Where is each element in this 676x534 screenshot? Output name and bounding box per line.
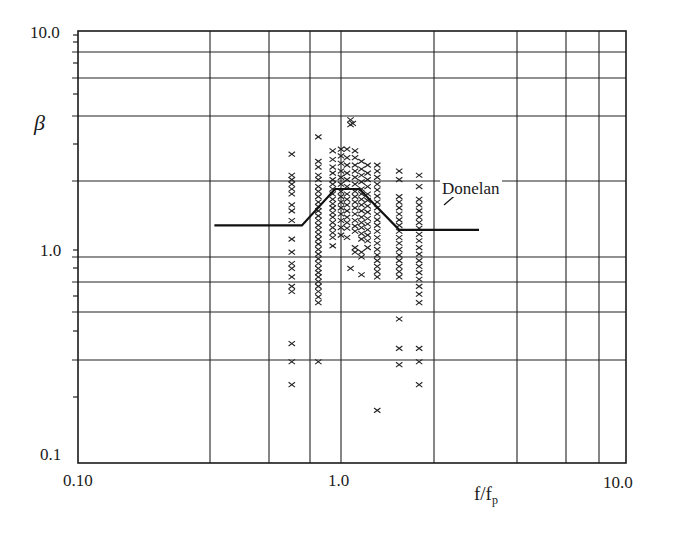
x-marker — [416, 238, 422, 243]
x-tick-label-10: 10.0 — [603, 474, 633, 491]
x-marker — [289, 187, 295, 192]
x-marker — [315, 165, 321, 170]
x-marker — [416, 292, 422, 297]
x-marker — [289, 218, 295, 223]
x-marker — [315, 295, 321, 300]
x-marker — [330, 165, 336, 170]
x-marker — [374, 275, 380, 280]
x-marker — [396, 200, 402, 205]
x-marker — [344, 208, 350, 213]
x-marker — [396, 346, 402, 351]
x-marker — [330, 235, 336, 240]
x-marker — [344, 163, 350, 168]
x-marker — [358, 173, 364, 178]
x-marker — [315, 227, 321, 232]
x-marker — [352, 245, 358, 250]
x-marker — [330, 243, 336, 248]
x-marker — [396, 317, 402, 322]
x-marker — [374, 408, 380, 413]
x-marker — [374, 247, 380, 252]
x-marker — [289, 237, 295, 242]
x-marker — [289, 173, 295, 178]
x-marker — [315, 159, 321, 164]
x-marker — [358, 250, 364, 255]
x-marker — [358, 231, 364, 236]
x-marker — [315, 214, 321, 219]
x-marker — [315, 232, 321, 237]
x-marker — [330, 148, 336, 153]
x-marker — [352, 229, 358, 234]
x-marker — [416, 264, 422, 269]
x-marker — [396, 241, 402, 246]
x-marker — [315, 223, 321, 228]
x-marker — [315, 270, 321, 275]
x-marker — [358, 167, 364, 172]
x-marker — [358, 197, 364, 202]
x-marker — [396, 258, 402, 263]
x-marker — [416, 284, 422, 289]
x-marker — [416, 300, 422, 305]
x-marker — [330, 225, 336, 230]
x-marker — [352, 250, 358, 255]
x-marker — [315, 237, 321, 242]
x-marker — [374, 269, 380, 274]
x-marker — [330, 220, 336, 225]
x-marker — [289, 203, 295, 208]
x-marker — [352, 182, 358, 187]
x-marker — [330, 210, 336, 215]
y-axis-label: β — [34, 112, 45, 134]
x-marker — [364, 238, 370, 243]
x-marker — [358, 237, 364, 242]
x-marker — [344, 192, 350, 197]
x-tick-label-0-10: 0.10 — [63, 472, 93, 489]
x-marker — [330, 230, 336, 235]
x-marker — [330, 205, 336, 210]
x-marker — [416, 245, 422, 250]
x-axis-label-main: f/f — [474, 483, 492, 504]
x-marker — [396, 275, 402, 280]
x-marker — [330, 157, 336, 162]
x-marker — [396, 205, 402, 210]
x-marker — [364, 233, 370, 238]
x-marker — [364, 204, 370, 209]
x-marker — [352, 163, 358, 168]
x-marker — [315, 289, 321, 294]
x-marker — [396, 212, 402, 217]
x-marker — [358, 215, 364, 220]
x-marker — [315, 194, 321, 199]
x-marker — [396, 194, 402, 199]
x-marker — [416, 208, 422, 213]
x-marker — [315, 242, 321, 247]
x-marker — [374, 241, 380, 246]
x-marker — [364, 163, 370, 168]
x-marker — [358, 203, 364, 208]
x-marker — [315, 252, 321, 257]
x-marker — [289, 208, 295, 213]
x-marker — [364, 227, 370, 232]
x-marker — [315, 218, 321, 223]
x-marker — [344, 155, 350, 160]
x-marker — [374, 217, 380, 222]
x-marker — [289, 182, 295, 187]
x-marker — [364, 210, 370, 215]
x-marker — [289, 289, 295, 294]
x-marker — [374, 175, 380, 180]
x-marker — [330, 197, 336, 202]
x-marker — [416, 215, 422, 220]
x-marker — [344, 220, 350, 225]
x-marker — [344, 215, 350, 220]
x-marker — [374, 212, 380, 217]
data-markers — [289, 117, 423, 412]
x-marker — [315, 284, 321, 289]
scatter-plot — [0, 0, 676, 534]
x-marker — [374, 169, 380, 174]
x-marker — [358, 272, 364, 277]
x-marker — [289, 192, 295, 197]
x-marker — [344, 226, 350, 231]
x-marker — [344, 235, 350, 240]
x-marker — [374, 163, 380, 168]
x-marker — [416, 197, 422, 202]
x-marker — [289, 275, 295, 280]
x-marker — [396, 247, 402, 252]
x-marker — [364, 245, 370, 250]
